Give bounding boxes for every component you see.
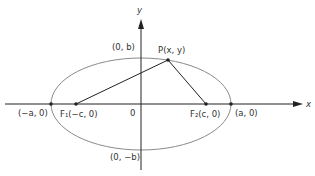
point-f1: [74, 102, 78, 106]
point-p: [166, 58, 170, 62]
y-axis-label: y: [136, 5, 143, 15]
segment-f2-p: [168, 60, 206, 104]
label-p: P(x, y): [158, 45, 185, 55]
label-f2: F₂(c, 0): [190, 109, 220, 119]
label-f1: F₁(−c, 0): [60, 109, 98, 119]
label-top-vertex: (0, b): [112, 42, 135, 52]
label-bottom-vertex: (0, −b): [110, 152, 140, 162]
point-right-vertex: [229, 102, 233, 106]
y-axis-arrow-icon: [138, 19, 144, 29]
x-axis-label: x: [305, 99, 312, 109]
point-left-vertex: [49, 102, 53, 106]
x-axis-arrow-icon: [293, 101, 303, 107]
label-left-vertex: (−a, 0): [18, 108, 48, 118]
origin-label: 0: [130, 108, 135, 118]
label-right-vertex: (a, 0): [235, 108, 258, 118]
ellipse-diagram: y x 0 (0, b) P(x, y) (−a, 0) F₁(−c, 0) F…: [0, 0, 315, 176]
point-f2: [204, 102, 208, 106]
